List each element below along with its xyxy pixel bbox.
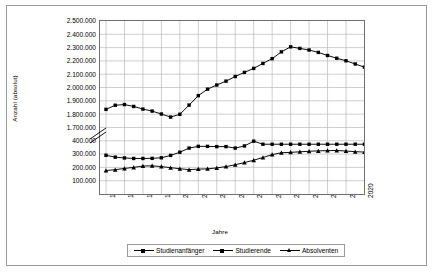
axis-break-icon bbox=[88, 126, 110, 144]
plot-area bbox=[99, 20, 365, 195]
legend-label: Studierende bbox=[235, 247, 271, 254]
legend-item[interactable]: Studienanfänger bbox=[134, 247, 204, 254]
legend-item[interactable]: Studierende bbox=[213, 247, 271, 254]
legend-label: Absolventen bbox=[302, 247, 338, 254]
legend-item[interactable]: Absolventen bbox=[280, 247, 338, 254]
triangle-marker-icon bbox=[280, 247, 300, 254]
square-marker-icon bbox=[134, 247, 154, 254]
chart-container: Anzahl (absolut) Jahre 2.500.0002.400.00… bbox=[0, 0, 435, 274]
legend-label: Studienanfänger bbox=[156, 247, 204, 254]
chart-plot-svg bbox=[100, 21, 364, 194]
chart-legend: StudienanfängerStudierendeAbsolventen bbox=[127, 244, 345, 257]
x-tick-label: 2020 bbox=[367, 183, 374, 198]
square-marker-icon bbox=[213, 247, 233, 254]
